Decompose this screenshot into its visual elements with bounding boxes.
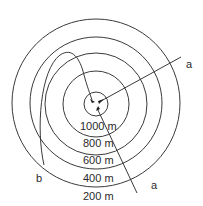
contour-400m bbox=[30, 37, 162, 169]
contour-1000m bbox=[84, 92, 108, 116]
label-b: b bbox=[36, 172, 42, 184]
label-a-upper: a bbox=[186, 58, 193, 70]
contour-map-diagram: 1000 m 800 m 600 m 400 m 200 m a a b bbox=[0, 0, 203, 206]
label-200m: 200 m bbox=[83, 190, 114, 202]
label-a-lower: a bbox=[151, 179, 158, 191]
label-600m: 600 m bbox=[83, 154, 114, 166]
arrow-head-icon bbox=[90, 99, 95, 103]
label-800m: 800 m bbox=[83, 137, 114, 149]
label-1000m: 1000 m bbox=[80, 120, 117, 132]
label-400m: 400 m bbox=[83, 172, 114, 184]
contour-svg: 1000 m 800 m 600 m 400 m 200 m a a b bbox=[0, 0, 203, 206]
line-a-upper bbox=[101, 57, 181, 101]
arrow-head-icon bbox=[98, 99, 104, 104]
